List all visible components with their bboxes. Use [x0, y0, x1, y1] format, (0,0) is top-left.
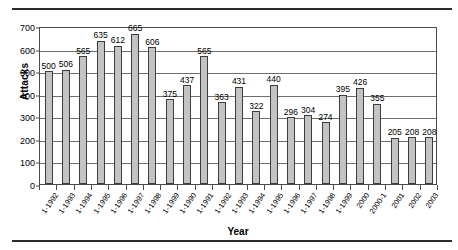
bar-value-label: 274	[318, 113, 332, 122]
bar-slot: 363	[213, 28, 230, 184]
y-tick-label: 400	[20, 91, 35, 101]
top-divider-rule	[12, 8, 452, 10]
bar[interactable]	[425, 137, 433, 184]
bar[interactable]	[287, 117, 295, 184]
bar-value-label: 440	[267, 75, 281, 84]
bar-value-label: 426	[353, 78, 367, 87]
bar-slot: 274	[317, 28, 334, 184]
bar[interactable]	[408, 137, 416, 184]
bar[interactable]	[200, 56, 208, 184]
x-tick-label: 1-1994	[247, 191, 268, 215]
bar-slot: 208	[421, 28, 438, 184]
bar-value-label: 322	[249, 102, 263, 111]
x-tick-label: 1-1995	[264, 191, 285, 215]
bar[interactable]	[235, 87, 243, 184]
bar-value-label: 606	[145, 38, 159, 47]
bar[interactable]	[339, 95, 347, 184]
bar-value-label: 363	[215, 93, 229, 102]
bar-slot: 635	[92, 28, 109, 184]
x-tick-mark	[247, 185, 248, 190]
x-tick-label: 2000-1	[368, 191, 389, 215]
bar-slot: 355	[369, 28, 386, 184]
bar[interactable]	[322, 122, 330, 184]
y-tick-label: 300	[20, 113, 35, 123]
bar[interactable]	[218, 102, 226, 184]
bar-slot: 440	[265, 28, 282, 184]
bar[interactable]	[166, 99, 174, 184]
x-tick-label: 1-1998	[143, 191, 164, 215]
x-tick-label: 1-1990	[178, 191, 199, 215]
x-tick-mark	[74, 185, 75, 190]
x-tick-label: 1-1991	[195, 191, 216, 215]
bar-value-label: 500	[42, 62, 56, 71]
bar-slot: 612	[109, 28, 126, 184]
bar-slot: 565	[196, 28, 213, 184]
x-tick-mark	[160, 185, 161, 190]
x-tick-mark	[212, 185, 213, 190]
bar-slot: 437	[178, 28, 195, 184]
bar-slot: 296	[282, 28, 299, 184]
bar[interactable]	[391, 138, 399, 184]
x-tick-mark	[39, 185, 40, 190]
x-tick-mark	[229, 185, 230, 190]
bar[interactable]	[252, 111, 260, 184]
bar[interactable]	[356, 88, 364, 184]
y-tick-label: 200	[20, 136, 35, 146]
x-tick-label: 2002	[406, 191, 423, 210]
bar[interactable]	[97, 41, 105, 184]
y-tick-label: 0	[30, 181, 35, 191]
x-tick-mark	[281, 185, 282, 190]
bar-chart-figure: Attacks 0100200300400500600700 500506565…	[0, 0, 458, 250]
bar-slot: 606	[144, 28, 161, 184]
x-tick-label: 1-1994	[74, 191, 95, 215]
x-tick-label: 2003	[424, 191, 441, 210]
bar-value-label: 208	[405, 128, 419, 137]
x-tick-mark	[264, 185, 265, 190]
bar[interactable]	[131, 34, 139, 184]
x-tick-mark	[437, 185, 438, 190]
bar-value-label: 395	[336, 85, 350, 94]
x-tick-label: 1-1992	[39, 191, 60, 215]
bar-value-label: 665	[128, 24, 142, 33]
bar[interactable]	[79, 56, 87, 184]
x-tick-label: 1-1992	[212, 191, 233, 215]
x-tick-mark	[368, 185, 369, 190]
y-tick-label: 700	[20, 23, 35, 33]
x-tick-mark	[316, 185, 317, 190]
bar[interactable]	[270, 85, 278, 184]
bar-slot: 500	[40, 28, 57, 184]
bar[interactable]	[148, 47, 156, 184]
x-tick-label: 1-1997	[126, 191, 147, 215]
x-tick-label: 2001	[389, 191, 406, 210]
bar-slot: 205	[386, 28, 403, 184]
bar-slot: 304	[300, 28, 317, 184]
bar[interactable]	[183, 85, 191, 184]
x-tick-mark	[385, 185, 386, 190]
x-tick-mark	[91, 185, 92, 190]
bar[interactable]	[373, 104, 381, 184]
bar[interactable]	[62, 70, 70, 184]
y-tick-label: 100	[20, 158, 35, 168]
bar[interactable]	[45, 71, 53, 184]
bar-slot: 208	[403, 28, 420, 184]
bar-value-label: 612	[111, 36, 125, 45]
bar-slot: 395	[334, 28, 351, 184]
bar-slot: 375	[161, 28, 178, 184]
bar-value-label: 431	[232, 77, 246, 86]
x-tick-mark	[126, 185, 127, 190]
bar[interactable]	[114, 46, 122, 184]
plot-area: 0100200300400500600700 50050656563561266…	[39, 27, 437, 185]
x-tick-label: 1-1998	[316, 191, 337, 215]
bar-slot: 322	[248, 28, 265, 184]
x-tick-mark	[108, 185, 109, 190]
y-tick-label: 600	[20, 46, 35, 56]
bar-value-label: 205	[388, 128, 402, 137]
bar[interactable]	[304, 115, 312, 184]
bar-value-label: 565	[197, 47, 211, 56]
bar-value-label: 565	[76, 47, 90, 56]
y-axis-title: Attacks	[19, 22, 30, 142]
x-tick-label: 1-1993	[230, 191, 251, 215]
bars-layer: 5005065656356126656063754375653634313224…	[40, 28, 436, 184]
bar-value-label: 296	[284, 108, 298, 117]
y-tick-label: 500	[20, 68, 35, 78]
